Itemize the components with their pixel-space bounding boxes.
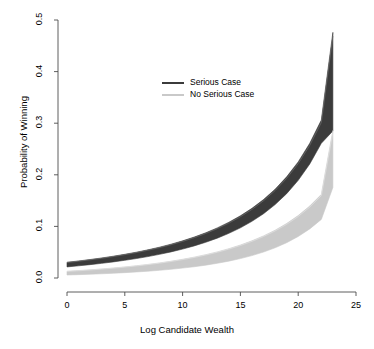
chart-figure: 0.00.10.20.30.40.5 0510152025 Probabilit… bbox=[0, 0, 374, 349]
x-tick-label: 15 bbox=[235, 300, 245, 310]
x-tick-label: 20 bbox=[293, 300, 303, 310]
plot-area bbox=[0, 0, 374, 349]
y-tick-label: 0.4 bbox=[34, 60, 44, 82]
legend-swatch-no-serious-case bbox=[162, 94, 184, 96]
x-tick-label: 10 bbox=[178, 300, 188, 310]
y-axis-title-wrap: Probability of Winning bbox=[13, 42, 31, 242]
y-axis-title: Probability of Winning bbox=[18, 96, 29, 188]
y-tick-label: 0.5 bbox=[34, 8, 44, 30]
legend-label: No Serious Case bbox=[190, 89, 254, 99]
x-tick-label: 5 bbox=[122, 300, 127, 310]
y-tick-label: 0.3 bbox=[34, 111, 44, 133]
x-axis-title: Log Candidate Wealth bbox=[0, 324, 374, 335]
y-tick-label: 0.0 bbox=[34, 266, 44, 288]
legend-label: Serious Case bbox=[190, 77, 241, 87]
y-tick-label: 0.1 bbox=[34, 214, 44, 236]
x-tick-label: 0 bbox=[64, 300, 69, 310]
y-tick-label: 0.2 bbox=[34, 163, 44, 185]
legend-swatch-serious-case bbox=[162, 82, 184, 84]
x-tick-label: 25 bbox=[351, 300, 361, 310]
